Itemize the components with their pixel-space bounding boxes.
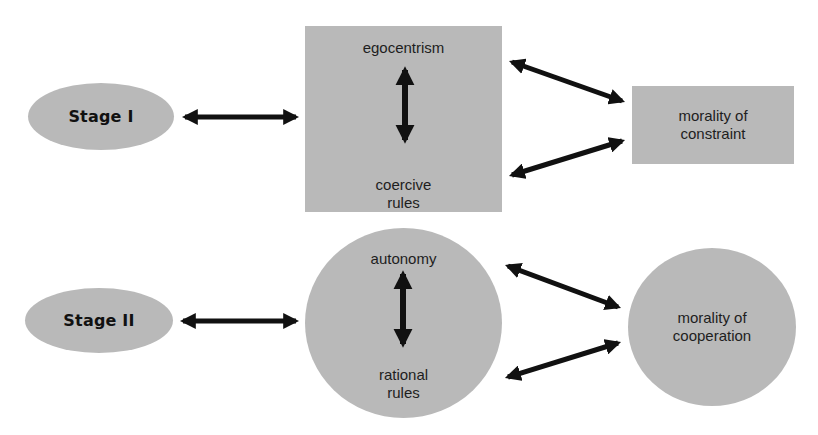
coercive-rules-label: rules — [305, 194, 502, 212]
box-to-constraint-upper-arrow-icon — [512, 62, 622, 101]
morality-of-cooperation-circle: morality of cooperation — [628, 248, 796, 406]
stage-1-label: Stage I — [68, 107, 133, 126]
rational-rules-label: rules — [305, 384, 502, 402]
circle-to-cooperation-upper-arrow-icon — [508, 266, 618, 307]
constraint-line-2: constraint — [680, 125, 745, 143]
circle-to-cooperation-lower-arrow-icon — [508, 343, 618, 377]
stage-1-node: Stage I — [28, 83, 174, 150]
box-to-constraint-lower-arrow-icon — [512, 141, 622, 175]
constraint-line-1: morality of — [678, 107, 747, 125]
cooperation-line-1: morality of — [677, 309, 746, 327]
autonomy-label: autonomy — [305, 250, 502, 268]
morality-of-constraint-box: morality of constraint — [632, 86, 794, 164]
rational-label: rational — [305, 366, 502, 384]
stage-2-label: Stage II — [63, 311, 134, 330]
egocentrism-coercive-box: egocentrism coercive rules — [305, 26, 502, 212]
egocentrism-label: egocentrism — [305, 39, 502, 57]
cooperation-line-2: cooperation — [673, 327, 751, 345]
coercive-label: coercive — [305, 176, 502, 194]
autonomy-rational-circle: autonomy rational rules — [305, 228, 502, 418]
stage-2-node: Stage II — [25, 288, 173, 353]
